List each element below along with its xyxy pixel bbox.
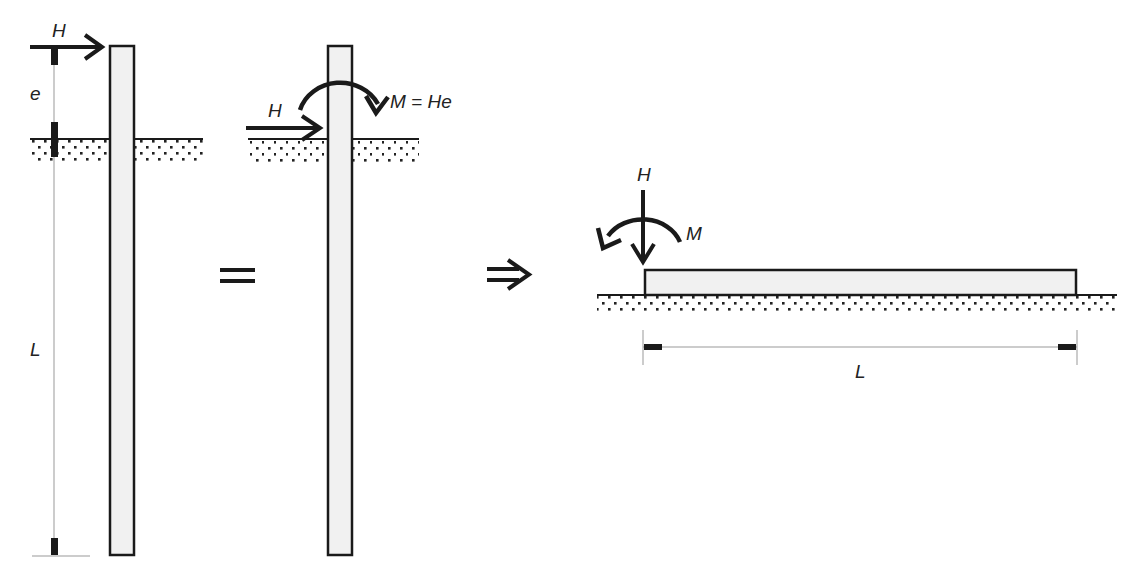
equals-sign (220, 268, 255, 283)
dimension-L-right (643, 330, 1077, 365)
vertical-force-arrow-right (632, 190, 654, 262)
length-label-L-left: L (30, 339, 41, 360)
force-label-H-right: H (637, 164, 651, 185)
moment-label-M-He: M = He (390, 91, 452, 112)
panel-left: H e L (30, 20, 203, 556)
length-label-L-right: L (855, 361, 866, 382)
moment-label-M-right: M (686, 223, 702, 244)
pile-lateral-load-diagram: H e L H M = He (0, 0, 1142, 582)
horizontal-force-arrow-left (30, 35, 102, 59)
dimension-e-L (32, 46, 90, 556)
panel-right: H M L (597, 164, 1117, 382)
eccentricity-label-e: e (30, 83, 41, 104)
pile-middle (328, 46, 352, 555)
force-label-H-left: H (52, 20, 66, 41)
horizontal-force-arrow-middle (246, 116, 320, 140)
soil-ground-right (597, 295, 1117, 313)
implies-arrow (487, 260, 529, 289)
panel-middle: H M = He (246, 46, 452, 555)
moment-arrow-right (598, 219, 680, 248)
pile-left (110, 46, 134, 555)
beam-on-foundation (645, 270, 1076, 295)
force-label-H-middle: H (268, 100, 282, 121)
